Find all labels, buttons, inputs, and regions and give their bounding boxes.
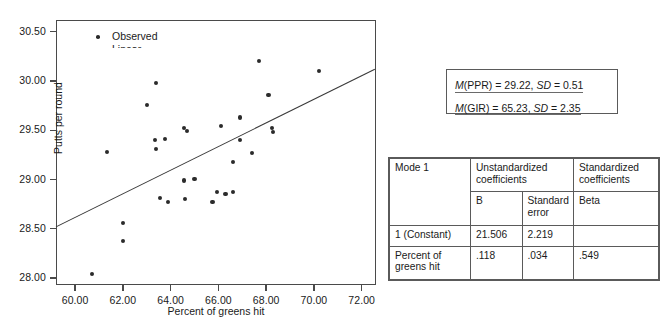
y-tick-label: 28.00 [19,271,46,283]
cell-row-label-constant: 1 (Constant) [390,225,471,246]
y-tick-mark [50,31,56,32]
data-point [231,160,235,164]
cell-model-label: Mode 1 [390,159,471,226]
observed-marker-icon [96,35,100,39]
x-tick-mark [265,285,266,291]
cell-beta-constant [574,225,659,246]
cell-header-b: B [471,192,523,225]
x-tick-mark [122,285,123,291]
stats-line-gir: M(GIR) = 65.23, SD = 2.35 [455,98,609,121]
data-point [121,221,125,225]
x-tick-mark [218,285,219,291]
descriptive-stats-box: M(PPR) = 29.22, SD = 0.51 M(GIR) = 65.23… [446,69,618,114]
cell-header-beta: Beta [574,192,659,225]
y-tick-mark [50,130,56,131]
cell-header-standard-error: Standard error [522,192,574,225]
data-point [250,151,254,155]
y-tick-label: 30.00 [19,74,46,86]
y-tick-mark [50,179,56,180]
table-header-row-1: Mode 1 Unstandardized coefficients Stand… [390,159,659,192]
table-row: Percent of greens hit .118 .034 .549 [390,246,659,279]
y-tick-label: 29.50 [19,123,46,135]
cell-se-greens: .034 [522,246,574,279]
y-tick-label: 28.50 [19,222,46,234]
y-tick-label: 30.50 [19,25,46,37]
coefficients-table: Mode 1 Unstandardized coefficients Stand… [388,157,660,281]
data-point [192,177,196,181]
data-point [266,93,270,97]
cell-row-label-greens: Percent of greens hit [390,246,471,279]
legend-label-observed: Observed [112,30,158,42]
legend-entry-observed: Observed [84,30,190,43]
figure-root: Putts per round Percent of greens hit 28… [0,0,665,331]
data-point [210,200,214,204]
scatter-plot-figure: Putts per round Percent of greens hit 28… [0,0,382,331]
cell-b-constant: 21.506 [471,225,523,246]
y-tick-mark [50,80,56,81]
table-row: 1 (Constant) 21.506 2.219 [390,225,659,246]
cell-se-constant: 2.219 [522,225,574,246]
data-point [163,137,167,141]
x-tick-mark [74,285,75,291]
stats-line-ppr: M(PPR) = 29.22, SD = 0.51 [455,75,609,98]
data-point [182,178,186,182]
cell-group-standardized: Standardized coefficients [574,159,659,192]
data-point [105,150,109,154]
x-tick-label: 72.00 [332,294,392,306]
cell-beta-greens: .549 [574,246,659,279]
y-axis-title: Putts per round [52,58,64,178]
y-tick-label: 29.00 [19,173,46,185]
x-tick-mark [361,285,362,291]
x-axis-title: Percent of greens hit [56,305,376,317]
cell-group-unstandardized: Unstandardized coefficients [471,159,574,192]
x-tick-mark [313,285,314,291]
cell-b-greens: .118 [471,246,523,279]
legend-label-linear: Linear [112,43,141,48]
legend: Observed Linear [70,24,190,48]
plot-frame [56,20,376,285]
data-point [238,115,242,119]
y-tick-mark [50,228,56,229]
y-tick-mark [50,277,56,278]
x-tick-mark [170,285,171,291]
legend-entry-linear: Linear [84,43,190,48]
